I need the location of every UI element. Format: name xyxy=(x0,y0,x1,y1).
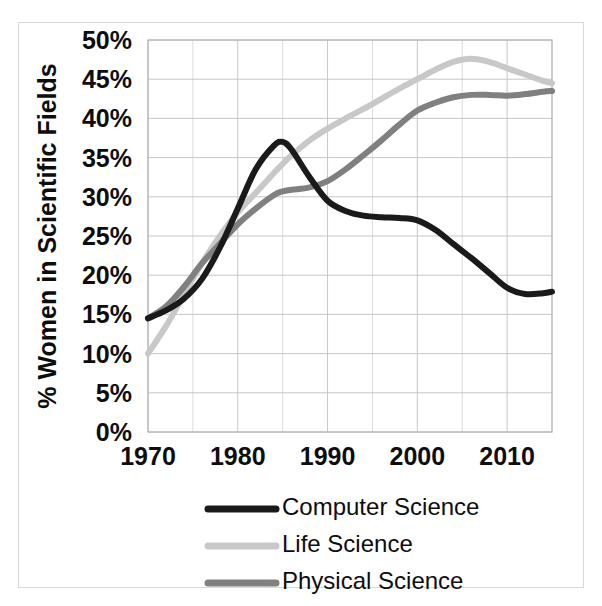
line-chart: 0%5%10%15%20%25%30%35%40%45%50% 19701980… xyxy=(0,0,602,606)
x-axis-tick-labels: 19701980199020002010 xyxy=(120,442,535,470)
y-tick-label: 10% xyxy=(82,340,132,368)
legend-label: Computer Science xyxy=(282,493,479,520)
legend-label: Life Science xyxy=(282,530,413,557)
y-axis-tick-labels: 0%5%10%15%20%25%30%35%40%45%50% xyxy=(82,26,132,446)
y-tick-label: 40% xyxy=(82,104,132,132)
y-tick-label: 15% xyxy=(82,300,132,328)
series-line-life-science xyxy=(148,59,552,354)
x-tick-label: 1980 xyxy=(210,442,266,470)
x-tick-label: 2000 xyxy=(390,442,446,470)
series-line-physical-science xyxy=(148,91,552,318)
gridlines xyxy=(148,40,552,432)
legend-item: Physical Science xyxy=(208,567,463,594)
y-tick-label: 25% xyxy=(82,222,132,250)
x-tick-label: 2010 xyxy=(479,442,535,470)
y-axis-label: % Women in Scientific Fields xyxy=(33,63,61,408)
chart-figure: 0%5%10%15%20%25%30%35%40%45%50% 19701980… xyxy=(0,0,602,606)
legend-label: Physical Science xyxy=(282,567,463,594)
y-tick-label: 5% xyxy=(96,379,132,407)
y-tick-label: 30% xyxy=(82,183,132,211)
y-tick-label: 50% xyxy=(82,26,132,54)
legend-item: Computer Science xyxy=(208,493,479,520)
legend-item: Life Science xyxy=(208,530,413,557)
y-axis-title: % Women in Scientific Fields xyxy=(33,63,61,408)
y-tick-label: 45% xyxy=(82,65,132,93)
chart-legend: Computer ScienceLife SciencePhysical Sci… xyxy=(208,493,479,594)
x-tick-label: 1990 xyxy=(300,442,356,470)
y-tick-label: 35% xyxy=(82,144,132,172)
x-tick-label: 1970 xyxy=(120,442,176,470)
y-tick-label: 20% xyxy=(82,261,132,289)
series-lines xyxy=(148,59,552,354)
